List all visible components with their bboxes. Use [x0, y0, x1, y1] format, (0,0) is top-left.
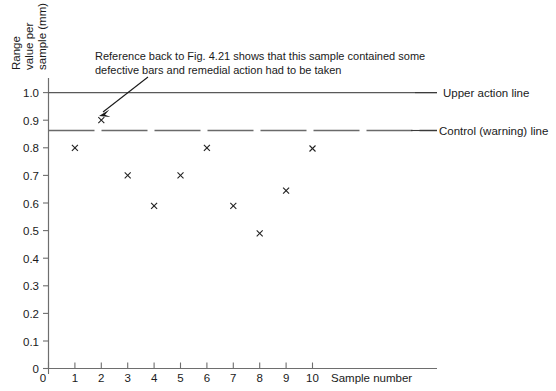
data-point-1	[72, 145, 78, 151]
chart-container: 0 0.1 0.2 0.3 0.4 0.5 0.6 0.7 0.8 0.9 1.…	[0, 0, 556, 391]
y-tick-label-0: 0	[33, 363, 39, 375]
y-tick-label-0.4: 0.4	[23, 253, 40, 265]
legend-label-upper-action-line: Upper action line	[443, 87, 529, 99]
x-tick-label-4: 4	[151, 372, 158, 384]
x-axis-title: Sample number	[331, 372, 412, 384]
data-point-5	[178, 172, 184, 178]
y-axis-title-line3: sample (mm)	[36, 3, 48, 70]
x-tick-label-0: 0	[40, 372, 46, 384]
range-control-chart: 0 0.1 0.2 0.3 0.4 0.5 0.6 0.7 0.8 0.9 1.…	[0, 0, 556, 391]
annotation-line-1: Reference back to Fig. 4.21 shows that t…	[95, 50, 425, 62]
y-tick-label-1.0: 1.0	[23, 87, 39, 99]
y-tick-label-0.3: 0.3	[23, 280, 39, 292]
legend-control-warning-line: Control (warning) line	[411, 125, 548, 137]
data-point-10	[310, 146, 316, 152]
y-axis-title: Range value per sample (mm)	[10, 3, 48, 70]
data-point-series	[72, 117, 316, 236]
x-tick-label-6: 6	[204, 372, 210, 384]
x-tick-label-8: 8	[256, 372, 262, 384]
data-point-4	[151, 203, 157, 209]
x-tick-label-2: 2	[98, 372, 104, 384]
legend-label-control-warning-line: Control (warning) line	[439, 125, 548, 137]
data-point-9	[283, 188, 289, 194]
data-point-7	[230, 203, 236, 209]
y-axis-ticks	[43, 93, 49, 369]
y-axis-title-line2: value per	[23, 23, 35, 70]
x-tick-label-1: 1	[72, 372, 78, 384]
x-tick-label-9: 9	[283, 372, 289, 384]
data-point-8	[257, 230, 263, 236]
y-tick-label-0.8: 0.8	[23, 142, 39, 154]
y-axis-title-line1: Range	[10, 36, 22, 70]
data-point-2	[98, 117, 104, 123]
y-tick-label-0.9: 0.9	[23, 115, 39, 127]
legend-upper-action-line: Upper action line	[415, 87, 529, 99]
y-tick-label-0.7: 0.7	[23, 170, 39, 182]
x-tick-label-10: 10	[306, 372, 319, 384]
data-point-3	[125, 172, 131, 178]
y-tick-label-0.5: 0.5	[23, 225, 39, 237]
y-tick-label-0.2: 0.2	[23, 308, 39, 320]
annotation-arrow-shaft	[103, 77, 148, 112]
y-tick-label-0.1: 0.1	[23, 336, 39, 348]
x-tick-label-7: 7	[230, 372, 236, 384]
y-axis-tick-labels: 0 0.1 0.2 0.3 0.4 0.5 0.6 0.7 0.8 0.9 1.…	[23, 87, 40, 375]
annotation-line-2: defective bars and remedial action had t…	[95, 64, 341, 76]
x-tick-label-3: 3	[124, 372, 130, 384]
x-axis-tick-labels: 0 1 2 3 4 5 6 7 8 9 10	[40, 372, 319, 384]
x-tick-label-5: 5	[177, 372, 183, 384]
reference-note-annotation: Reference back to Fig. 4.21 shows that t…	[95, 50, 425, 117]
data-point-6	[204, 145, 210, 151]
y-tick-label-0.6: 0.6	[23, 198, 39, 210]
